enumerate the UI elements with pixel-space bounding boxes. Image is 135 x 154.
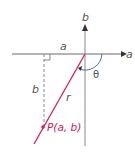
- vertical-segment-label: b: [32, 83, 39, 96]
- vertical-axis-arrow-icon: [82, 24, 88, 31]
- horizontal-segment-label: a: [60, 40, 67, 53]
- point-label: P(a, b): [47, 121, 81, 133]
- radius-label: r: [66, 91, 72, 104]
- angle-label: θ: [93, 69, 99, 80]
- polar-coordinate-diagram: b a a b r θ P(a, b): [0, 0, 135, 154]
- vertical-axis-label: b: [82, 11, 89, 24]
- right-angle-marker: [44, 54, 50, 60]
- point-p: [41, 125, 45, 129]
- angle-arc: [79, 54, 102, 70]
- angle-arc-arrow-icon: [78, 66, 82, 71]
- horizontal-axis-label: a: [126, 48, 133, 61]
